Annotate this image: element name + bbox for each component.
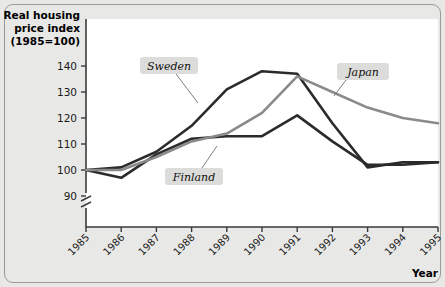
x-axis-title: Year xyxy=(411,267,439,279)
y-tick-label: 100 xyxy=(57,164,77,176)
annotation-label-sweden: Sweden xyxy=(147,60,191,73)
line-chart: Real housing price index (1985=100) 9010… xyxy=(0,0,445,287)
y-axis-title-line-1: Real housing xyxy=(3,9,80,21)
x-tick-label: 1991 xyxy=(277,232,303,258)
x-tick-label: 1986 xyxy=(101,232,127,258)
y-axis-title-line-2: price index xyxy=(14,22,80,34)
y-tick-label: 140 xyxy=(57,60,77,72)
annotation-label-japan: Japan xyxy=(345,66,379,79)
x-axis-ticks: 1985198619871988198919901991199219931994… xyxy=(66,227,444,257)
chart-figure: Real housing price index (1985=100) 9010… xyxy=(0,0,445,287)
x-tick-label: 1994 xyxy=(382,232,408,258)
annotation-leader-line xyxy=(334,80,346,96)
series-line-sweden xyxy=(86,71,438,170)
y-axis-title-line-3: (1985=100) xyxy=(10,35,80,47)
x-tick-label: 1985 xyxy=(66,232,92,258)
y-axis-ticks: 90100110120130140 xyxy=(57,60,86,202)
y-tick-label: 90 xyxy=(64,190,77,202)
annotation-leader-line xyxy=(176,74,198,103)
x-tick-label: 1989 xyxy=(206,232,232,258)
annotation-label-finland: Finland xyxy=(172,171,215,184)
x-axis-line xyxy=(86,208,438,227)
y-tick-label: 130 xyxy=(57,86,77,98)
x-tick-label: 1992 xyxy=(312,232,338,258)
annotation-leader-line xyxy=(202,146,217,168)
y-tick-label: 120 xyxy=(57,112,77,124)
x-tick-label: 1990 xyxy=(242,232,268,258)
series-line-japan xyxy=(86,76,438,170)
x-tick-label: 1987 xyxy=(136,232,162,258)
x-tick-label: 1995 xyxy=(418,232,444,258)
axis-break-icon xyxy=(81,196,91,207)
x-tick-label: 1988 xyxy=(171,232,197,258)
series-annotations: SwedenFinlandJapan xyxy=(140,57,389,185)
data-series-group xyxy=(86,71,438,178)
y-tick-label: 110 xyxy=(57,138,77,150)
x-tick-label: 1993 xyxy=(347,232,373,258)
series-line-finland xyxy=(86,115,438,177)
